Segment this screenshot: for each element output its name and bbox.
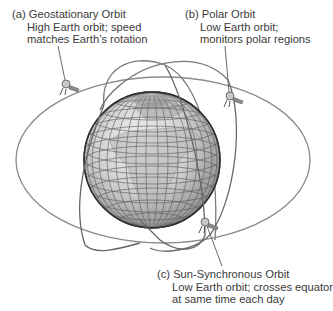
label-polar-orbit: (b) Polar Orbit Low Earth orbit; monitor… [185,8,311,46]
leader-line-c [207,226,222,266]
label-c-title: (c) Sun-Synchronous Orbit [157,268,333,281]
label-c-line-1: Low Earth orbit; crosses equator [157,281,333,294]
label-a-line-2: matches Earth’s rotation [12,33,147,46]
label-a-line-1: High Earth orbit; speed [12,21,147,34]
label-c-line-2: at same time each day [157,293,333,306]
label-geostationary-orbit: (a) Geostationary Orbit High Earth orbit… [12,8,147,46]
leader-line-a [58,46,65,80]
earth-globe [84,92,220,228]
satellite-polar-icon [224,92,243,107]
label-b-line-2: monitors polar regions [185,33,311,46]
label-b-line-1: Low Earth orbit; [185,21,311,34]
label-sun-synchronous-orbit: (c) Sun-Synchronous Orbit Low Earth orbi… [157,268,333,306]
label-b-title: (b) Polar Orbit [185,8,311,21]
north-pole-cap [134,95,170,107]
label-a-title: (a) Geostationary Orbit [12,8,147,21]
